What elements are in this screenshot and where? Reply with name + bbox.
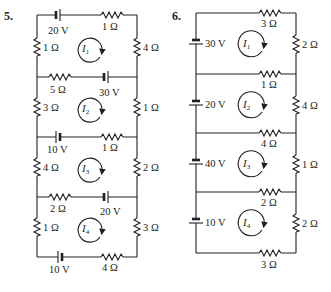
label: 2 Ω xyxy=(261,197,277,208)
label: 1 Ω xyxy=(102,21,118,32)
label: 2 Ω xyxy=(302,218,318,229)
loop-current-label: I2 xyxy=(81,102,90,116)
label: 3 Ω xyxy=(43,102,59,113)
resistor-icon xyxy=(34,158,40,176)
resistor-icon xyxy=(293,35,299,53)
resistor-icon xyxy=(49,74,71,80)
loop-current-label: I2 xyxy=(242,98,251,112)
right-rail: 2 Ω 4 Ω 1 Ω 2 Ω xyxy=(293,13,318,253)
resistor-icon xyxy=(134,38,140,56)
resistor-icon xyxy=(49,194,71,200)
label: 3 Ω xyxy=(261,259,277,270)
h2-branch: 10 V 1 Ω xyxy=(37,131,137,155)
resistor-icon xyxy=(259,189,281,195)
resistor-icon xyxy=(101,254,123,260)
loop-current-label: I4 xyxy=(242,216,251,230)
label: 10 V xyxy=(47,144,68,155)
resistor-icon xyxy=(101,12,123,18)
label: 5 Ω xyxy=(50,84,66,95)
label: 4 Ω xyxy=(43,162,59,173)
h3-branch: 2 Ω 20 V xyxy=(37,191,137,217)
resistor-icon xyxy=(293,96,299,114)
label: 20 V xyxy=(100,206,121,217)
label: 20 V xyxy=(205,99,226,110)
loop-current-label: I3 xyxy=(81,162,90,176)
label: 30 V xyxy=(205,38,226,49)
resistor-icon xyxy=(134,98,140,116)
label: 1 Ω xyxy=(43,222,59,233)
label: 2 Ω xyxy=(50,203,66,214)
loop-current-label: I4 xyxy=(81,222,90,236)
label: 1 Ω xyxy=(102,142,118,153)
label: 20 V xyxy=(48,25,69,36)
resistor-icon xyxy=(259,250,281,256)
resistor-icon xyxy=(34,98,40,116)
resistor-icon xyxy=(34,218,40,236)
label: 4 Ω xyxy=(102,262,118,273)
left-rail: 1 Ω 3 Ω 4 Ω 1 Ω xyxy=(34,15,59,257)
resistor-icon xyxy=(134,218,140,236)
bottom-branch: 10 V 4 Ω xyxy=(37,251,137,275)
top-branch: 20 V 1 Ω xyxy=(37,9,137,36)
loop-current-arrows xyxy=(78,38,102,242)
label: 3 Ω xyxy=(143,222,159,233)
label: 2 Ω xyxy=(302,39,318,50)
resistor-icon xyxy=(134,158,140,176)
circuit-6: 6. 3 Ω 1 Ω 4 Ω 2 Ω 3 Ω 30 V 20 V xyxy=(172,9,318,270)
label: 1 Ω xyxy=(143,102,159,113)
label: 10 V xyxy=(205,217,226,228)
circuit-5: 5. 20 V 1 Ω 1 Ω 3 Ω 4 Ω 1 Ω xyxy=(4,9,159,275)
loop-current-label: I1 xyxy=(81,42,90,56)
right-rail: 4 Ω 1 Ω 2 Ω 3 Ω xyxy=(134,15,159,257)
loop-current-label: I3 xyxy=(242,157,251,171)
label: 1 Ω xyxy=(302,159,318,170)
label: 40 V xyxy=(205,158,226,169)
label: 4 Ω xyxy=(143,42,159,53)
resistor-icon xyxy=(293,214,299,232)
resistor-icon xyxy=(293,155,299,173)
label: 1 Ω xyxy=(43,42,59,53)
label: 2 Ω xyxy=(143,162,159,173)
problem-number: 5. xyxy=(4,9,13,23)
h1-branch: 5 Ω 30 V xyxy=(37,71,137,98)
loop-current-label: I1 xyxy=(242,37,251,51)
problem-number: 6. xyxy=(172,9,181,23)
label: 30 V xyxy=(99,87,120,98)
resistor-icon xyxy=(101,134,123,140)
label: 4 Ω xyxy=(261,138,277,149)
resistor-icon xyxy=(34,38,40,56)
resistor-icon xyxy=(259,130,281,136)
label: 10 V xyxy=(49,264,70,275)
label: 3 Ω xyxy=(261,18,277,29)
resistor-icon xyxy=(259,10,281,16)
label: 4 Ω xyxy=(302,100,318,111)
resistor-icon xyxy=(259,71,281,77)
label: 1 Ω xyxy=(261,79,277,90)
circuit-diagrams: 5. 20 V 1 Ω 1 Ω 3 Ω 4 Ω 1 Ω xyxy=(0,0,331,292)
